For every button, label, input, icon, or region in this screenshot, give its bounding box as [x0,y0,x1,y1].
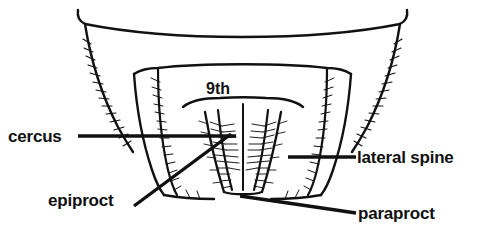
anatomical-figure: cercus lateral spine epiproct paraproct … [0,0,485,252]
label-epiproct: epiproct [48,192,113,209]
label-cercus: cercus [8,128,62,145]
label-lateral-spine: lateral spine [357,149,454,166]
label-paraproct: paraproct [358,205,435,222]
label-ninth-segment: 9th [206,80,230,98]
